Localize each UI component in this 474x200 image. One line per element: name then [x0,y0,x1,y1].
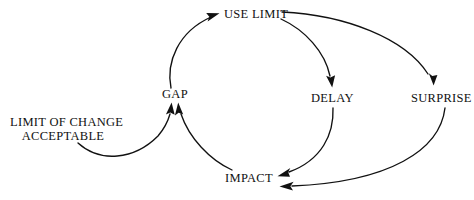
arrow-head-surprise [429,73,438,85]
node-label-surprise: SURPRISE [411,92,472,106]
edge-path-delay-to-impact [289,108,333,172]
arrow-head-gap-from-impact [175,103,183,116]
edge-path-impact-to-gap [181,114,232,170]
edge-use-limit-to-delay [281,19,335,88]
node-label-impact: IMPACT [225,172,273,186]
node-label-limit-of-change-acceptable: LIMIT OF CHANGE ACCEPTABLE [10,115,116,143]
node-label-gap: GAP [162,88,188,102]
causal-loop-diagram: USE LIMIT GAP DELAY SURPRISE IMPACT LIMI… [0,0,474,200]
arrow-head-impact-from-delay [278,168,291,177]
edge-impact-to-gap [175,103,232,171]
edge-path-use-limit-to-surprise [282,12,428,74]
arrow-head-use-limit [206,13,219,21]
arrow-head-gap-from-limit [166,103,175,115]
edge-surprise-to-impact [280,108,446,190]
edge-path-surprise-to-impact [292,108,445,186]
edge-gap-to-use-limit [170,13,220,88]
edge-path-gap-to-use-limit [170,17,211,88]
edge-delay-to-impact [278,108,334,177]
arrow-head-delay [326,75,335,87]
edge-use-limit-to-surprise [282,12,437,86]
node-label-use-limit: USE LIMIT [224,8,288,22]
edge-path-use-limit-to-delay [281,19,330,76]
diagram-canvas [0,0,474,200]
node-label-delay: DELAY [311,92,354,106]
node-label-limit-of-change-line1: LIMIT OF CHANGE [10,115,116,129]
node-label-limit-of-change-line2: ACCEPTABLE [10,129,116,143]
